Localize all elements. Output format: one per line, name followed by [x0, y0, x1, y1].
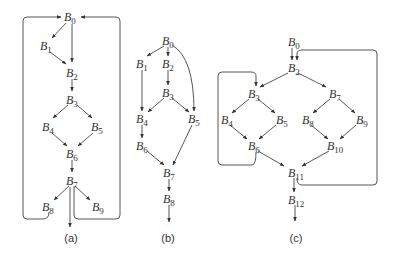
node-b12: B12 [288, 193, 304, 209]
caption-c: (c) [290, 232, 303, 244]
node-b11: B11 [288, 166, 304, 182]
node-b8: B8 [163, 192, 175, 208]
panel-a-edges [23, 17, 120, 227]
node-b7: B7 [66, 174, 78, 190]
node-b2: B2 [288, 61, 300, 77]
caption-b: (b) [161, 232, 174, 244]
node-b6: B6 [136, 139, 148, 155]
node-b9: B9 [356, 113, 368, 129]
node-b4: B4 [221, 113, 233, 129]
node-b5: B5 [276, 113, 288, 129]
node-b5: B5 [188, 112, 200, 128]
node-b5: B5 [91, 120, 103, 136]
node-b10: B10 [327, 139, 344, 155]
cfg-figure: B0 B1 B2 B3 B4 B5 B6 B7 B8 B9 (a) [0, 0, 397, 258]
panel-c: B0 B2 B3 B7 B4 B5 B8 B9 B6 B10 B11 B12 (… [218, 35, 377, 244]
panel-b: B0 B1 B2 B3 B4 B5 B6 B7 B8 (b) [136, 34, 200, 244]
node-b8: B8 [302, 113, 314, 129]
panel-c-nodes: B0 B2 B3 B7 B4 B5 B8 B9 B6 B10 B11 B12 [221, 35, 368, 209]
node-b1: B1 [40, 39, 52, 55]
panel-a: B0 B1 B2 B3 B4 B5 B6 B7 B8 B9 (a) [23, 10, 120, 244]
node-b3: B3 [162, 86, 174, 102]
node-b2: B2 [66, 66, 78, 82]
node-b4: B4 [136, 112, 148, 128]
node-b0: B0 [162, 34, 174, 50]
caption-a: (a) [64, 232, 77, 244]
node-b8: B8 [42, 200, 54, 216]
node-b3: B3 [248, 87, 260, 103]
node-b1: B1 [136, 57, 148, 73]
node-b4: B4 [42, 120, 54, 136]
node-b2: B2 [162, 57, 174, 73]
node-b9: B9 [92, 200, 104, 216]
node-b3: B3 [66, 93, 78, 109]
node-b7: B7 [329, 87, 341, 103]
node-b0: B0 [64, 10, 76, 26]
node-b0: B0 [288, 35, 300, 51]
node-b6: B6 [66, 147, 78, 163]
node-b7: B7 [163, 166, 175, 182]
node-b6: B6 [248, 139, 260, 155]
panel-b-nodes: B0 B1 B2 B3 B4 B5 B6 B7 B8 [136, 34, 200, 208]
